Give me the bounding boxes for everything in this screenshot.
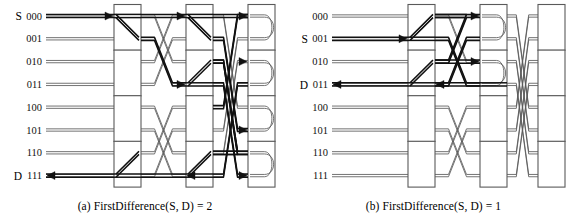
route-arrow-s3-2 xyxy=(239,58,247,66)
switch-box-s1-g0[interactable] xyxy=(408,5,435,51)
switch-box-s1-g0[interactable] xyxy=(114,5,141,51)
route-arrow-s3-7 xyxy=(239,172,247,180)
switch-box-s2-g0[interactable] xyxy=(186,5,213,51)
row-label-011: 011 xyxy=(313,79,328,90)
switch-box-s2-g2[interactable] xyxy=(186,96,213,142)
row-label-011: 011 xyxy=(27,79,42,90)
caption-a: (a) FirstDifference(S, D) = 2 xyxy=(0,200,290,212)
switch-boxes xyxy=(114,5,275,188)
row-labels: 000001010011100101110111SD xyxy=(14,10,42,182)
switch-box-s3-g1[interactable] xyxy=(248,50,275,96)
switch-box-s2-g3[interactable] xyxy=(186,141,213,187)
switch-boxes xyxy=(408,5,565,188)
route-arrow-s3-0 xyxy=(239,12,247,20)
switch-box-s3-g0[interactable] xyxy=(538,5,565,51)
row-label-001: 001 xyxy=(312,33,328,44)
switch-box-s1-g2[interactable] xyxy=(408,96,435,142)
route-arrow-back1 xyxy=(436,80,444,88)
route-s1-s2-link xyxy=(141,40,186,86)
route-s1-s2-link xyxy=(141,37,186,83)
route-arrow-s2a xyxy=(177,12,185,20)
row-label-000: 000 xyxy=(26,11,42,22)
dest-label: D xyxy=(14,170,22,182)
route-arrow-s3-5 xyxy=(239,126,247,134)
row-label-100: 100 xyxy=(312,102,328,113)
switch-box-s2-g2[interactable] xyxy=(480,96,507,142)
dest-label: D xyxy=(300,79,308,91)
panel-a: 000001010011100101110111SD (a) FirstDiff… xyxy=(0,0,290,222)
row-label-000: 000 xyxy=(312,11,328,22)
figure-container: 000001010011100101110111SD (a) FirstDiff… xyxy=(0,0,577,222)
switch-box-s1-g1[interactable] xyxy=(114,50,141,96)
row-label-010: 010 xyxy=(26,56,42,67)
diagram-b-canvas: 000001010011100101110111SD xyxy=(290,0,577,190)
route-arrow-s2-2 xyxy=(471,58,479,66)
caption-b: (b) FirstDifference(S, D) = 1 xyxy=(290,200,577,212)
light-links xyxy=(46,15,275,177)
switch-box-s1-g2[interactable] xyxy=(114,96,141,142)
switch-box-s1-g3[interactable] xyxy=(408,141,435,187)
row-label-100: 100 xyxy=(26,102,42,113)
route-path xyxy=(46,12,248,180)
switch-box-s3-g2[interactable] xyxy=(538,96,565,142)
diagram-a-canvas: 000001010011100101110111SD xyxy=(0,0,290,190)
row-label-111: 111 xyxy=(313,170,328,181)
route-arrow-out xyxy=(47,172,55,180)
switch-box-s2-g1[interactable] xyxy=(186,50,213,96)
row-labels: 000001010011100101110111SD xyxy=(300,11,328,182)
source-label: S xyxy=(16,10,22,22)
row-label-110: 110 xyxy=(27,147,42,158)
row-label-101: 101 xyxy=(26,125,42,136)
switch-box-s3-g2[interactable] xyxy=(248,96,275,142)
route-arrow-s2b xyxy=(177,80,185,88)
source-label: S xyxy=(302,33,308,45)
switch-box-s2-g1[interactable] xyxy=(480,50,507,96)
switch-box-s1-g3[interactable] xyxy=(114,141,141,187)
row-label-111: 111 xyxy=(27,170,42,181)
route-arrow-out xyxy=(333,80,341,88)
route-arrow-in xyxy=(399,35,407,43)
switch-box-s3-g3[interactable] xyxy=(538,141,565,187)
switch-box-s1-g1[interactable] xyxy=(408,50,435,96)
switch-box-s3-g0[interactable] xyxy=(248,5,275,51)
switch-box-s3-g1[interactable] xyxy=(538,50,565,96)
switch-box-s2-g3[interactable] xyxy=(480,141,507,187)
switch-box-s2-g0[interactable] xyxy=(480,5,507,51)
route-arrow-s2-0 xyxy=(471,12,479,20)
row-label-010: 010 xyxy=(312,56,328,67)
row-label-101: 101 xyxy=(312,125,328,136)
switch-box-s3-g3[interactable] xyxy=(248,141,275,187)
row-label-110: 110 xyxy=(313,147,328,158)
row-label-001: 001 xyxy=(26,33,42,44)
panel-b: 000001010011100101110111SD (b) FirstDiff… xyxy=(290,0,577,222)
route-arrow-in xyxy=(105,12,113,20)
